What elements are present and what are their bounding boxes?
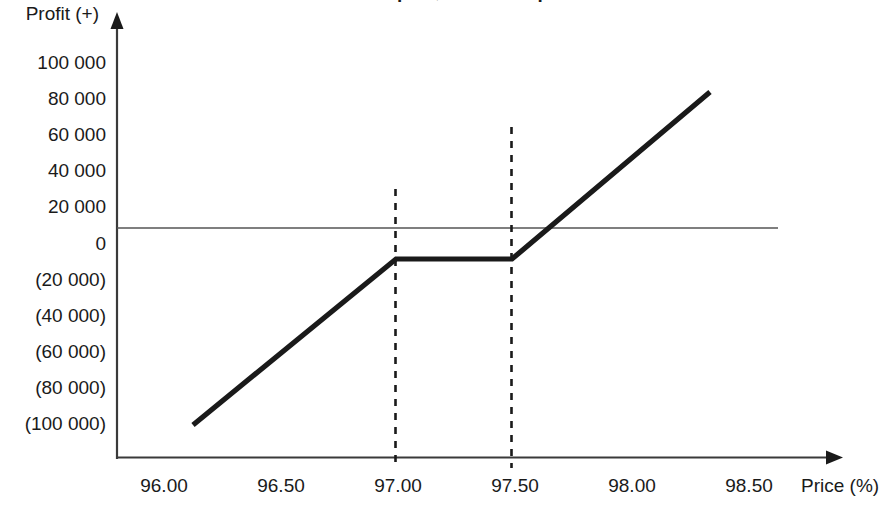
y-tick-label: 0 <box>95 233 106 254</box>
y-tick-label: 40 000 <box>48 160 106 181</box>
y-tick-label: 60 000 <box>48 124 106 145</box>
x-tick-label: 97.50 <box>491 475 539 496</box>
x-tick-label: 98.00 <box>608 475 656 496</box>
x-tick-label: 96.00 <box>140 475 188 496</box>
y-tick-label: (100 000) <box>25 413 106 434</box>
x-tick-label: 97.00 <box>374 475 422 496</box>
x-axis-arrowhead <box>826 451 843 465</box>
y-tick-label: (60 000) <box>35 341 106 362</box>
y-tick-label: (40 000) <box>35 305 106 326</box>
x-tick-label: 96.50 <box>257 475 305 496</box>
chart-title: Profit or loss per $10m bond position <box>275 0 612 2</box>
y-tick-label: (20 000) <box>35 269 106 290</box>
y-axis-arrowhead <box>111 12 124 29</box>
payoff-line <box>193 92 710 425</box>
y-tick-label: (80 000) <box>35 377 106 398</box>
chart-figure: Profit or loss per $10m bond position Pr… <box>0 0 886 511</box>
y-tick-label: 80 000 <box>48 88 106 109</box>
profit-loss-chart: Profit or loss per $10m bond position Pr… <box>0 0 886 511</box>
y-tick-label: 100 000 <box>37 52 106 73</box>
x-tick-label: 98.50 <box>725 475 773 496</box>
y-axis-title: Profit (+) <box>26 3 99 24</box>
x-axis-title: Price (%) <box>801 475 879 496</box>
y-tick-label: 20 000 <box>48 196 106 217</box>
